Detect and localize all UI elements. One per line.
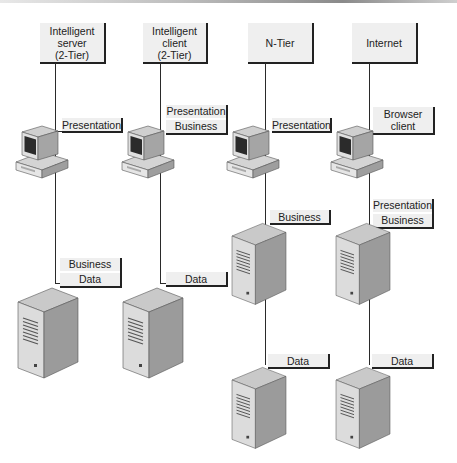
client-computer-icon [118,122,178,182]
label-line: client [391,120,416,132]
connector-line [369,63,370,365]
label-line: Browser [384,108,423,120]
label-business: Business [60,258,120,271]
title-intelligent-client: Intelligent client (2-Tier) [143,23,208,64]
title-line: N-Tier [266,37,295,49]
server-icon [331,362,395,452]
server-icon [16,282,80,382]
title-line: Intelligent [50,25,95,37]
title-line: (2-Tier) [157,49,191,61]
server-icon [227,362,291,452]
title-line: (2-Tier) [55,49,89,61]
client-computer-icon [12,122,72,182]
title-n-tier: N-Tier [248,23,314,64]
label-presentation: Presentation [373,199,432,212]
top-border [0,0,457,3]
title-intelligent-server: Intelligent server (2-Tier) [40,23,106,64]
client-computer-icon [223,122,283,182]
title-line: client [162,37,187,49]
title-line: server [57,37,86,49]
server-icon [121,282,185,382]
connector-line [265,63,266,365]
title-line: Internet [366,37,402,49]
title-line: Intelligent [152,25,197,37]
client-computer-icon [327,122,387,182]
server-icon [227,218,291,308]
server-icon [331,218,395,308]
title-internet: Internet [352,23,418,64]
label-presentation: Presentation [166,105,226,118]
